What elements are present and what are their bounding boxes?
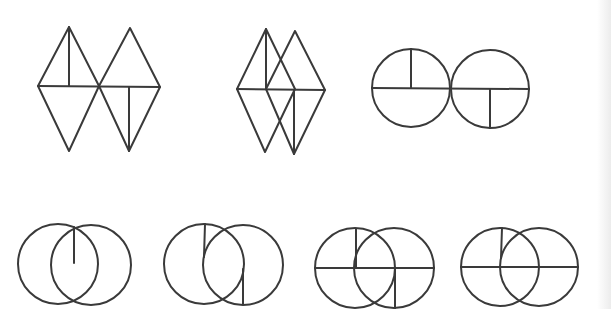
line-segment <box>237 89 325 90</box>
puzzle-figure-canvas <box>0 0 611 309</box>
fig-3 <box>372 49 529 128</box>
figure-drawing <box>0 0 611 309</box>
line-segment <box>204 224 205 257</box>
line-segment <box>501 228 502 258</box>
line-segment <box>372 88 529 89</box>
line-segment <box>38 86 160 87</box>
circle-shape <box>51 225 131 305</box>
fig-7 <box>461 228 578 306</box>
page-edge-shade <box>597 0 611 309</box>
fig-6 <box>315 228 434 309</box>
fig-4 <box>18 224 131 305</box>
fig-2 <box>237 29 325 154</box>
fig-5 <box>164 224 283 305</box>
figures-group <box>18 27 578 309</box>
fig-1 <box>38 27 160 151</box>
circle-shape <box>18 224 98 304</box>
